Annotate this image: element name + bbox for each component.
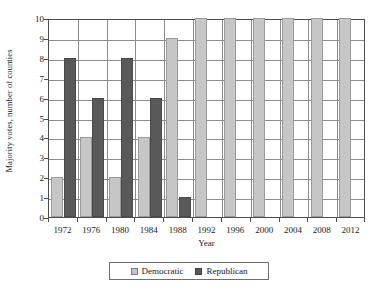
x-axis-tick (336, 218, 337, 222)
x-axis-tick (279, 218, 280, 222)
legend-swatch-republican-icon (195, 268, 202, 275)
bar-democratic-2008 (311, 18, 323, 217)
y-axis-tick-label: 8 (18, 54, 44, 63)
x-axis-tick-label: 1972 (48, 224, 77, 236)
plot-area (48, 19, 365, 218)
bar-democratic-1996 (224, 18, 236, 217)
legend-entry-republican: Republican (195, 266, 247, 276)
y-axis-tick-label: 10 (18, 15, 44, 24)
bar-democratic-1976 (80, 137, 92, 217)
bar-democratic-2000 (253, 18, 265, 217)
bar-democratic-1972 (51, 177, 63, 217)
x-axis-tick-label: 1976 (77, 224, 106, 236)
legend-entry-democratic: Democratic (131, 266, 184, 276)
x-axis-tick-label: 1988 (163, 224, 192, 236)
legend-label-republican: Republican (206, 266, 247, 276)
x-axis-tick (364, 218, 365, 222)
y-axis-tick-label: 7 (18, 74, 44, 83)
x-axis-tick-label: 2008 (307, 224, 336, 236)
bar-democratic-1980 (109, 177, 121, 217)
y-axis-tick-label: 4 (18, 134, 44, 143)
x-axis-tick (77, 218, 78, 222)
y-axis-title: Majority votes, number of counties (2, 2, 16, 220)
x-axis-tick-label: 1984 (134, 224, 163, 236)
y-axis-tick-label: 1 (18, 194, 44, 203)
legend-swatch-democratic-icon (131, 268, 138, 275)
x-axis-tick (106, 218, 107, 222)
bar-democratic-2004 (282, 18, 294, 217)
bar-republican-1976 (92, 98, 104, 217)
bar-republican-1980 (121, 58, 133, 217)
y-axis-tick-label: 9 (18, 34, 44, 43)
x-axis-tick-label: 2000 (250, 224, 279, 236)
y-axis-tick-label: 6 (18, 94, 44, 103)
bars-layer (49, 20, 364, 217)
bar-democratic-2012 (339, 18, 351, 217)
x-axis-tick-label: 1980 (106, 224, 135, 236)
x-axis-tick-label: 2004 (279, 224, 308, 236)
bar-republican-1984 (150, 98, 162, 217)
x-axis-tick (134, 218, 135, 222)
x-axis-tick (48, 218, 49, 222)
x-axis-tick-marks (48, 218, 365, 222)
x-axis-tick-label: 1992 (192, 224, 221, 236)
y-axis-tick-label: 3 (18, 154, 44, 163)
x-axis-tick (307, 218, 308, 222)
x-axis-tick (221, 218, 222, 222)
x-axis-tick (192, 218, 193, 222)
bar-democratic-1992 (195, 18, 207, 217)
x-axis-tick-labels: 1972197619801984198819921996200020042008… (48, 224, 365, 236)
bar-democratic-1984 (138, 137, 150, 217)
bar-republican-1988 (179, 197, 191, 217)
y-axis-tick-label: 5 (18, 114, 44, 123)
x-axis-tick-label: 1996 (221, 224, 250, 236)
x-axis-tick (163, 218, 164, 222)
y-axis-tick-label: 0 (18, 214, 44, 223)
x-axis-tick (250, 218, 251, 222)
y-axis-tick-labels: 012345678910 (18, 19, 44, 218)
legend-label-democratic: Democratic (142, 266, 184, 276)
y-axis-tick-label: 2 (18, 174, 44, 183)
bar-chart-figure: Majority votes, number of counties 01234… (0, 0, 378, 291)
chart-legend: Democratic Republican (109, 262, 269, 280)
x-axis-title: Year (48, 238, 365, 249)
x-axis-tick-label: 2012 (336, 224, 365, 236)
bar-democratic-1988 (166, 38, 178, 217)
bar-republican-1972 (64, 58, 76, 217)
